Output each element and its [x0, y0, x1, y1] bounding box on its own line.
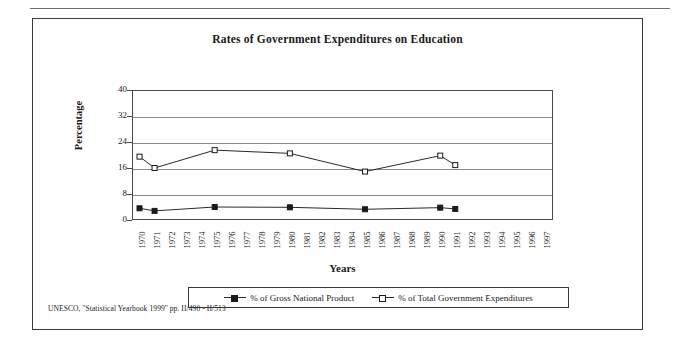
x-tick-label: 1990 [433, 222, 447, 247]
x-tick-label: 1994 [493, 222, 507, 247]
figure-container: Rates of Government Expenditures on Educ… [32, 18, 643, 330]
data-point-marker [212, 148, 217, 153]
y-tick-mark [127, 116, 132, 117]
x-tick-label: 1992 [463, 222, 477, 247]
source-note: UNESCO, ''Statistical Yearbook 1999'' pp… [48, 304, 226, 313]
x-axis-title: Years [132, 262, 553, 274]
x-tick-label: 1979 [268, 222, 282, 247]
x-tick-label: 1995 [508, 222, 522, 247]
x-tick-label: 1985 [358, 222, 372, 247]
data-point-marker [438, 153, 443, 158]
chart-legend: % of Gross National Product % of Total G… [188, 287, 569, 308]
top-horizontal-rule [30, 8, 670, 9]
y-tick-label: 8 [105, 188, 127, 198]
data-point-marker [453, 163, 458, 168]
legend-item-total-gov-exp: % of Total Government Expenditures [372, 293, 533, 303]
data-point-marker [287, 151, 292, 156]
data-point-marker [137, 206, 142, 211]
x-tick-label: 1980 [283, 222, 297, 247]
x-tick-label: 1993 [478, 222, 492, 247]
legend-item-gnp: % of Gross National Product [224, 293, 354, 303]
x-tick-label: 1981 [298, 222, 312, 247]
data-point-marker [453, 206, 458, 211]
y-tick-mark [127, 90, 132, 91]
x-tick-label: 1970 [133, 222, 147, 247]
x-tick-label: 1997 [538, 222, 552, 247]
data-point-marker [137, 154, 142, 159]
x-tick-label: 1984 [343, 222, 357, 247]
x-axis-tick-labels: 1970197119721973197419751976197719781979… [132, 222, 553, 264]
y-tick-label: 16 [105, 162, 127, 172]
x-tick-label: 1989 [418, 222, 432, 247]
filled-square-marker-icon [224, 293, 246, 302]
data-point-marker [287, 205, 292, 210]
x-tick-label: 1986 [373, 222, 387, 247]
x-tick-label: 1974 [193, 222, 207, 247]
data-point-marker [363, 207, 368, 212]
x-tick-label: 1991 [448, 222, 462, 247]
x-tick-label: 1988 [403, 222, 417, 247]
x-tick-label: 1987 [388, 222, 402, 247]
y-tick-label: 40 [105, 84, 127, 94]
data-point-marker [152, 166, 157, 171]
open-square-marker-icon [372, 293, 394, 302]
x-tick-label: 1982 [313, 222, 327, 247]
data-point-marker [152, 208, 157, 213]
y-tick-mark [127, 168, 132, 169]
y-tick-mark [127, 220, 132, 221]
y-tick-label: 0 [105, 214, 127, 224]
legend-label-total-gov-exp: % of Total Government Expenditures [398, 293, 533, 303]
x-tick-label: 1971 [148, 222, 162, 247]
x-tick-label: 1976 [223, 222, 237, 247]
x-tick-label: 1972 [163, 222, 177, 247]
chart-title: Rates of Government Expenditures on Educ… [33, 33, 642, 45]
data-point-marker [438, 205, 443, 210]
y-axis-tick-labels: 0816243240 [103, 90, 127, 220]
x-tick-label: 1975 [208, 222, 222, 247]
x-tick-label: 1978 [253, 222, 267, 247]
series-line-gnp [140, 207, 456, 211]
data-point-marker [212, 205, 217, 210]
y-tick-label: 24 [105, 136, 127, 146]
x-tick-label: 1983 [328, 222, 342, 247]
data-series-layer [132, 90, 553, 220]
data-point-marker [363, 169, 368, 174]
y-tick-label: 32 [105, 110, 127, 120]
x-tick-label: 1973 [178, 222, 192, 247]
y-tick-mark [127, 194, 132, 195]
series-line-total-gov-exp [140, 150, 456, 171]
x-tick-label: 1996 [523, 222, 537, 247]
y-axis-title: Percentage [73, 78, 84, 174]
legend-label-gnp: % of Gross National Product [250, 293, 354, 303]
x-tick-label: 1977 [238, 222, 252, 247]
y-tick-mark [127, 142, 132, 143]
